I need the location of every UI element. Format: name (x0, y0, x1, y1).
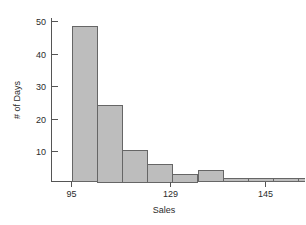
histogram-bar (173, 175, 198, 183)
y-axis-title: # of Days (12, 80, 22, 119)
histogram-plot: 50 40 30 20 10 95 129 145 Sales # of Day… (0, 0, 305, 225)
x-axis-title: Sales (153, 205, 176, 215)
x-tick-label-145: 145 (258, 189, 273, 199)
y-tick-label-10: 10 (36, 147, 46, 157)
x-tick-label-95: 95 (66, 189, 76, 199)
histogram-bar (123, 151, 148, 183)
histogram-bar (98, 106, 123, 183)
y-tick-label-30: 30 (36, 82, 46, 92)
y-tick-label-20: 20 (36, 115, 46, 125)
histogram-bar (299, 179, 306, 182)
histogram-bar (224, 179, 249, 182)
histogram-bar (199, 171, 224, 182)
y-tick-label-40: 40 (36, 50, 46, 60)
x-tick-labels: 95 129 145 (66, 189, 273, 199)
histogram-figure: 50 40 30 20 10 95 129 145 Sales # of Day… (0, 0, 305, 225)
histogram-bar (148, 165, 173, 183)
y-tick-label-50: 50 (36, 17, 46, 27)
histogram-bars (73, 27, 306, 183)
y-tick-marks (52, 22, 58, 152)
histogram-bar (249, 179, 274, 182)
histogram-bar (274, 179, 299, 182)
histogram-bar (73, 27, 98, 182)
y-tick-labels: 50 40 30 20 10 (36, 17, 46, 157)
x-tick-label-129: 129 (163, 189, 178, 199)
